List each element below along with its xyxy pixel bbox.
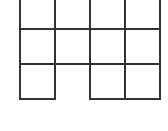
grid-cell [124, 28, 161, 65]
grid-cell [124, 0, 161, 30]
grid-cell [124, 63, 161, 100]
square-grid-diagram [0, 0, 168, 131]
grid-cell [19, 63, 56, 100]
grid-cell [89, 28, 126, 65]
grid-cell [54, 28, 91, 65]
grid-cell [89, 0, 126, 30]
grid-cell [89, 63, 126, 100]
grid-cell [19, 28, 56, 65]
grid-cell [19, 0, 56, 30]
grid-cell [54, 0, 91, 30]
